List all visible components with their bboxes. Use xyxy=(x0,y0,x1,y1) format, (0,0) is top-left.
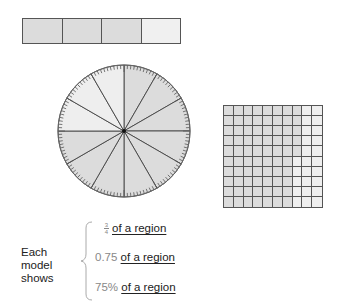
grid-cell-shaded xyxy=(224,136,234,146)
grid-cell-shaded xyxy=(253,177,263,187)
grid-cell-shaded xyxy=(273,197,283,207)
grid-cell-shaded xyxy=(273,177,283,187)
grid-cell-shaded xyxy=(273,157,283,167)
grid-cell-shaded xyxy=(253,167,263,177)
grid-cell-shaded xyxy=(263,136,273,146)
grid-cell-unshaded xyxy=(312,167,322,177)
grid-cell-shaded xyxy=(293,146,303,156)
grid-cell-unshaded xyxy=(312,116,322,126)
grid-cell-unshaded xyxy=(312,126,322,136)
grid-cell-shaded xyxy=(234,116,244,126)
grid-cell-shaded xyxy=(293,106,303,116)
grid-cell-shaded xyxy=(273,167,283,177)
grid-cell-shaded xyxy=(234,167,244,177)
grid-cell-shaded xyxy=(273,116,283,126)
bar-segment-unshaded xyxy=(142,19,181,43)
grid-cell-unshaded xyxy=(293,197,303,207)
grid-cell-shaded xyxy=(253,146,263,156)
grid-cell-shaded xyxy=(234,177,244,187)
grid-cell-shaded xyxy=(244,177,254,187)
grid-cell-shaded xyxy=(224,126,234,136)
grid-cell-shaded xyxy=(234,146,244,156)
grid-cell-shaded xyxy=(224,116,234,126)
bar-segment-shaded xyxy=(63,19,103,43)
grid-cell-shaded xyxy=(263,197,273,207)
grid-cell-unshaded xyxy=(312,106,322,116)
grid-cell-shaded xyxy=(273,126,283,136)
circle-model xyxy=(56,63,192,199)
denominator: 4 xyxy=(105,229,108,235)
decimal-value: 0.75 xyxy=(95,251,117,263)
bar-model xyxy=(22,18,181,44)
grid-cell-unshaded xyxy=(302,187,312,197)
grid-cell-shaded xyxy=(283,177,293,187)
brace-icon xyxy=(80,220,94,302)
grid-cell-shaded xyxy=(263,116,273,126)
grid-cell-shaded xyxy=(224,146,234,156)
grid-cell-shaded xyxy=(283,106,293,116)
row-text: of a region xyxy=(121,281,175,293)
row-text: of a region xyxy=(112,222,166,234)
grid-cell-shaded xyxy=(293,126,303,136)
grid-cell-shaded xyxy=(253,197,263,207)
grid-cell-unshaded xyxy=(293,177,303,187)
grid-cell-shaded xyxy=(273,136,283,146)
grid-cell-shaded xyxy=(253,157,263,167)
grid-cell-shaded xyxy=(244,106,254,116)
grid-cell-unshaded xyxy=(293,157,303,167)
grid-cell-unshaded xyxy=(312,146,322,156)
grid-model xyxy=(223,105,323,208)
grid-cell-shaded xyxy=(263,126,273,136)
grid-cell-shaded xyxy=(244,187,254,197)
percent-row: 75% of a region xyxy=(95,281,176,293)
grid-cell-shaded xyxy=(224,106,234,116)
grid-cell-shaded xyxy=(253,136,263,146)
grid-cell-shaded xyxy=(244,167,254,177)
grid-cell-unshaded xyxy=(302,106,312,116)
grid-cell-shaded xyxy=(283,126,293,136)
grid-cell-shaded xyxy=(283,116,293,126)
grid-cell-unshaded xyxy=(302,177,312,187)
decimal-row: 0.75 of a region xyxy=(95,251,175,263)
grid-cell-shaded xyxy=(224,177,234,187)
grid-cell-shaded xyxy=(234,197,244,207)
grid-cell-shaded xyxy=(283,146,293,156)
grid-cell-shaded xyxy=(263,177,273,187)
grid-cell-shaded xyxy=(234,157,244,167)
grid-cell-shaded xyxy=(244,126,254,136)
grid-cell-unshaded xyxy=(312,157,322,167)
grid-cell-shaded xyxy=(234,187,244,197)
grid-cell-shaded xyxy=(283,167,293,177)
grid-cell-shaded xyxy=(224,157,234,167)
grid-cell-unshaded xyxy=(302,157,312,167)
fraction-row: 3 4 of a region xyxy=(104,222,166,235)
grid-cell-unshaded xyxy=(302,146,312,156)
grid-cell-shaded xyxy=(263,106,273,116)
grid-cell-shaded xyxy=(273,146,283,156)
grid-cell-unshaded xyxy=(302,116,312,126)
grid-cell-shaded xyxy=(224,167,234,177)
center-dot xyxy=(122,129,126,133)
grid-cell-shaded xyxy=(253,106,263,116)
grid-cell-unshaded xyxy=(302,126,312,136)
caption-label: Each model shows xyxy=(21,246,81,285)
grid-cell-shaded xyxy=(263,157,273,167)
grid-cell-shaded xyxy=(283,136,293,146)
grid-cell-shaded xyxy=(293,136,303,146)
grid-cell-shaded xyxy=(234,136,244,146)
grid-cell-shaded xyxy=(244,146,254,156)
grid-cell-unshaded xyxy=(312,177,322,187)
grid-cell-unshaded xyxy=(302,167,312,177)
fraction-value: 3 4 xyxy=(104,222,109,235)
grid-cell-shaded xyxy=(263,187,273,197)
grid-cell-shaded xyxy=(263,167,273,177)
grid-cell-shaded xyxy=(253,126,263,136)
grid-cell-shaded xyxy=(253,116,263,126)
grid-cell-shaded xyxy=(283,157,293,167)
grid-cell-shaded xyxy=(234,126,244,136)
grid-cell-shaded xyxy=(263,146,273,156)
grid-cell-unshaded xyxy=(302,136,312,146)
bar-segment-shaded xyxy=(102,19,142,43)
grid-cell-shaded xyxy=(224,197,234,207)
grid-cell-shaded xyxy=(224,187,234,197)
